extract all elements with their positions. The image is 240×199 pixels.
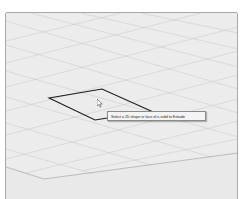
arrow-pointer-icon xyxy=(97,99,103,108)
3d-viewport[interactable]: Select a 2D shape or face of a solid to … xyxy=(5,12,238,199)
sketch-shape[interactable] xyxy=(6,13,237,199)
tooltip: Select a 2D shape or face of a solid to … xyxy=(107,111,206,121)
tooltip-text: Select a 2D shape or face of a solid to … xyxy=(111,115,185,119)
